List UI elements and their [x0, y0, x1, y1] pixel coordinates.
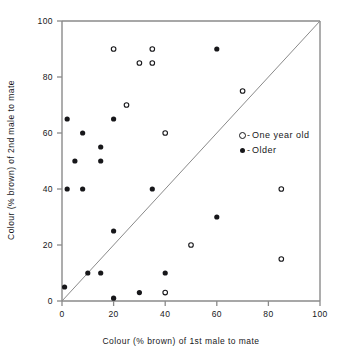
x-tick-label: 0: [59, 309, 64, 319]
data-point-older: [111, 228, 116, 233]
data-point-older: [98, 144, 103, 149]
data-point-older: [80, 130, 85, 135]
legend-entry: -Older: [238, 143, 310, 158]
legend-label: Older: [252, 143, 277, 158]
y-tick-label: 0: [0, 296, 53, 306]
filled-circle-icon: [238, 147, 247, 154]
y-tick-label: 20: [0, 240, 53, 250]
data-point-older: [214, 46, 219, 51]
data-point-one-year-old: [150, 47, 155, 52]
data-point-older: [80, 186, 85, 191]
data-point-older: [98, 158, 103, 163]
y-tick-label: 100: [0, 16, 53, 26]
data-point-older: [85, 270, 90, 275]
data-point-older: [65, 116, 70, 121]
data-point-older: [72, 158, 77, 163]
data-point-one-year-old: [279, 257, 284, 262]
plot-canvas: [0, 0, 362, 363]
data-point-older: [111, 116, 116, 121]
open-circle-icon: [238, 132, 247, 140]
data-point-older: [163, 270, 168, 275]
data-point-one-year-old: [163, 290, 168, 295]
data-point-older: [150, 186, 155, 191]
data-point-older: [137, 290, 142, 295]
data-point-older: [98, 270, 103, 275]
data-point-one-year-old: [240, 89, 245, 94]
scatter-plot-figure: Colour (% brown) of 2nd male to mate Col…: [0, 0, 362, 363]
legend-marker: [240, 148, 245, 153]
x-tick-label: 20: [108, 309, 118, 319]
data-point-older: [65, 186, 70, 191]
y-tick-label: 40: [0, 184, 53, 194]
data-point-older: [111, 296, 116, 301]
data-point-one-year-old: [279, 187, 284, 192]
data-point-one-year-old: [124, 103, 129, 108]
x-tick-label: 60: [212, 309, 222, 319]
legend-entry: -One year old: [238, 128, 310, 143]
legend: -One year old-Older: [238, 128, 310, 158]
data-point-older: [214, 214, 219, 219]
legend-label: One year old: [252, 128, 310, 143]
data-points: [62, 46, 284, 300]
legend-marker: [239, 132, 246, 139]
x-tick-label: 40: [160, 309, 170, 319]
data-point-one-year-old: [111, 47, 116, 52]
data-point-one-year-old: [163, 131, 168, 136]
data-point-older: [62, 284, 67, 289]
y-tick-label: 80: [0, 72, 53, 82]
y-tick-label: 60: [0, 128, 53, 138]
x-tick-label: 80: [263, 309, 273, 319]
data-point-one-year-old: [137, 61, 142, 66]
data-point-one-year-old: [189, 243, 194, 248]
x-tick-label: 100: [312, 309, 327, 319]
data-point-one-year-old: [150, 61, 155, 66]
